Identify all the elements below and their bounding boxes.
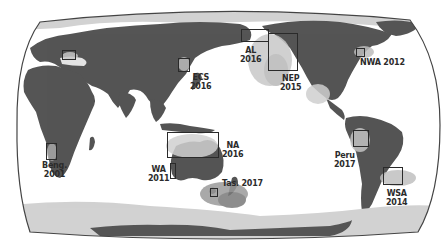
label-beng: Beng. 2001 <box>42 162 67 179</box>
label-peru: Peru 2017 <box>334 152 355 169</box>
label-nwa: NWA 2012 <box>360 59 405 68</box>
region-box-nep <box>268 33 298 71</box>
region-box-peru <box>353 130 369 147</box>
region-box-nwa <box>356 48 365 57</box>
label-nep: NEP 2015 <box>280 75 301 92</box>
label-wa: WA 2011 <box>148 166 169 183</box>
region-box-wa <box>170 163 176 179</box>
region-box-beng <box>46 143 57 160</box>
region-box-wsa <box>383 167 403 185</box>
map-body <box>0 0 447 249</box>
label-na: NA 2016 <box>222 142 243 159</box>
label-ecs: ECS 2016 <box>190 74 211 91</box>
region-box-al <box>241 29 269 42</box>
world-map <box>0 0 447 249</box>
label-wsa: WSA 2014 <box>386 190 407 207</box>
region-box-ecs <box>178 58 190 72</box>
label-al: AL 2016 <box>240 47 261 64</box>
label-tas: Tas. 2017 <box>222 180 263 189</box>
region-box-tas <box>210 188 218 197</box>
region-box-na <box>167 132 219 158</box>
region-box-med <box>62 50 76 60</box>
